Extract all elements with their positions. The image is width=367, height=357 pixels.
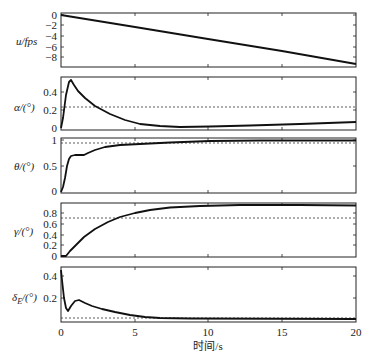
panel-alpha: 0 0.2 0.4 α/(°): [14, 77, 356, 134]
ytick-alpha-2: 0.4: [43, 86, 57, 98]
ytick-theta-0: 0: [52, 185, 58, 197]
panel-delta-e: 0.4 0.2 δE/(°) 0 5 10 15 20 时间/s: [12, 267, 362, 352]
xtick-20: 20: [351, 326, 363, 338]
panel-u: 0 −2 −4 −6 −8 u/fps: [16, 9, 356, 67]
ytick-delta-e-0: 0.2: [43, 292, 57, 304]
ytick-theta-1: 0.5: [43, 160, 57, 172]
ylabel-theta: θ/(°): [14, 160, 35, 173]
panel-u-frame: [61, 13, 356, 67]
ytick-alpha-1: 0.2: [43, 104, 57, 116]
ylabel-alpha: α/(°): [14, 101, 35, 114]
xtick-15: 15: [277, 326, 289, 338]
ytick-delta-e-1: 0.4: [43, 270, 57, 282]
panel-alpha-frame: [61, 77, 356, 130]
ytick-gamma-0: 0: [52, 250, 58, 262]
xtick-5: 5: [132, 326, 138, 338]
xtick-10: 10: [203, 326, 215, 338]
ylabel-u: u/fps: [16, 35, 37, 47]
curve-alpha: [61, 80, 356, 128]
panel-gamma: 0.8 0.6 0.4 0.2 0 γ/(°): [14, 203, 356, 262]
ytick-alpha-0: 0: [52, 122, 58, 134]
ytick-u-4: −8: [45, 51, 57, 63]
curve-theta: [61, 141, 356, 193]
xtick-0: 0: [58, 326, 64, 338]
curve-delta-e: [61, 270, 356, 319]
panel-theta: 1 0.5 0 θ/(°): [14, 134, 356, 197]
panel-delta-e-frame: [61, 267, 356, 322]
curve-gamma: [61, 205, 356, 256]
ytick-theta-2: 1: [52, 134, 58, 146]
ylabel-delta-e: δE/(°): [12, 291, 37, 306]
curve-u: [61, 15, 356, 64]
panel-gamma-frame: [61, 203, 356, 257]
xlabel: 时间/s: [193, 340, 222, 352]
ylabel-gamma: γ/(°): [14, 225, 33, 238]
chart-figure: 0 −2 −4 −6 −8 u/fps 0 0.2 0.4 α/(°) 1: [0, 0, 367, 357]
